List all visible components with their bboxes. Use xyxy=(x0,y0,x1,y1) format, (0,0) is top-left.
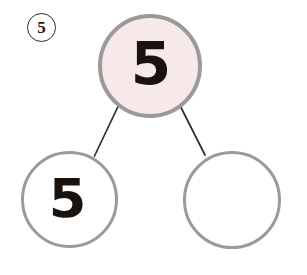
number-bond-whole-value: 5 xyxy=(131,35,171,93)
number-bond-part-right-circle[interactable] xyxy=(183,151,281,249)
connector-line-left xyxy=(95,106,119,157)
connector-line-right xyxy=(180,106,205,156)
number-bond-whole-circle[interactable]: 5 xyxy=(98,14,202,118)
number-bond-part-left-circle[interactable]: 5 xyxy=(21,151,118,248)
number-bond-part-left-value: 5 xyxy=(49,172,87,226)
number-bond-worksheet-item: 5 5 5 xyxy=(0,0,307,275)
